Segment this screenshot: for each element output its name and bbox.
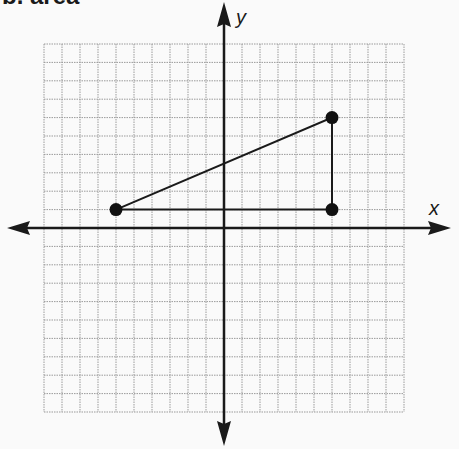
vertex-point-1	[110, 203, 123, 216]
y-axis-down-arrow-icon	[217, 421, 231, 446]
coordinate-plane: x y	[0, 0, 459, 449]
vertex-point-3	[326, 111, 339, 124]
y-axis-up-arrow-icon	[217, 2, 231, 27]
y-axis-label: y	[234, 6, 247, 28]
y-axis	[217, 2, 231, 446]
vertex-point-2	[326, 203, 339, 216]
x-axis	[7, 221, 451, 235]
x-axis-right-arrow-icon	[428, 221, 451, 235]
x-axis-left-arrow-icon	[7, 221, 30, 235]
graph-page: b. area x y	[0, 0, 459, 449]
x-axis-label: x	[428, 197, 440, 219]
